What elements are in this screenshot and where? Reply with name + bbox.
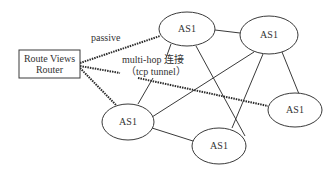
as-label: AS1 — [210, 140, 228, 151]
as-node-bottom-left: AS1 — [102, 104, 154, 140]
as-label: AS1 — [178, 23, 196, 34]
edge-router-bottomleft — [80, 68, 116, 105]
edge-tunnel-right — [138, 78, 268, 106]
multihop-label-line2: （tcp tunnel） — [126, 66, 186, 77]
edge-bottomleft-bottomcenter — [152, 128, 193, 141]
edge-router-label — [80, 66, 120, 73]
as-node-top-center: AS1 — [159, 12, 215, 46]
as-label: AS1 — [286, 104, 304, 115]
as-node-top-right: AS1 — [240, 16, 298, 54]
as-label: AS1 — [260, 29, 278, 40]
edge-topcenter-topright — [215, 30, 240, 33]
router-label-line1: Route Views — [24, 53, 75, 64]
as-node-right: AS1 — [268, 93, 322, 127]
multihop-label-line1: multi-hop 连接 — [122, 53, 184, 65]
passive-label: passive — [91, 32, 121, 43]
as-node-bottom-center: AS1 — [192, 128, 246, 164]
as-label: AS1 — [119, 116, 137, 127]
edge-topcenter-bottomcenter — [196, 46, 245, 136]
route-views-router: Route Views Router — [19, 50, 80, 78]
edge-topright-bottomcenter — [232, 54, 263, 128]
network-diagram: Route Views Router AS1 AS1 AS1 AS1 AS1 p… — [0, 0, 334, 175]
edge-topright-right — [282, 52, 299, 94]
edge-bottomleft-tunnel — [138, 78, 153, 104]
router-label-line2: Router — [36, 64, 64, 75]
